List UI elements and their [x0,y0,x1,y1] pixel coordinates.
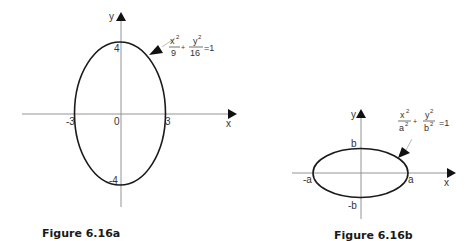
svg-text:2: 2 [176,34,180,40]
y-axis-arrow-icon [356,109,366,118]
svg-text:a: a [399,123,404,133]
tick-top: 4 [114,43,120,54]
figure-6-16b: y x b -b -a a x 2 a 2 + y 2 b 2 =1 Figur… [292,108,456,241]
y-axis-arrow-icon [116,12,126,21]
y-axis-label: y [351,109,356,120]
svg-text:x: x [400,110,405,120]
equation-a: x 2 9 + y 2 16 =1 [169,34,214,58]
tick-bottom: -b [348,200,357,211]
svg-text:=1: =1 [439,118,449,128]
svg-text:x: x [170,36,175,46]
y-axis-label: y [109,11,114,22]
tick-origin: 0 [114,116,120,127]
tick-right: 3 [165,116,171,127]
svg-text:=1: =1 [204,43,214,53]
pointer-arrow-icon [149,45,163,55]
figure-6-16a: y x 4 -4 -3 0 3 x 2 9 + y 2 16 =1 Figure… [22,11,237,240]
svg-text:16: 16 [190,48,200,58]
caption: Figure 6.16b [334,229,413,241]
ellipse-curve [75,42,166,185]
equation-pointer [406,139,412,150]
svg-text:2: 2 [198,34,202,40]
svg-text:2: 2 [405,121,409,127]
svg-text:9: 9 [171,48,176,58]
tick-right: a [408,174,414,185]
svg-text:2: 2 [406,108,410,114]
ellipse-figures: y x 4 -4 -3 0 3 x 2 9 + y 2 16 =1 Figure… [0,0,474,241]
x-axis-label: x [444,177,449,188]
pointer-arrow-icon [398,147,410,158]
equation-b: x 2 a 2 + y 2 b 2 =1 [398,108,449,133]
tick-left: -3 [66,116,75,127]
tick-top: b [351,138,357,149]
tick-bottom: -4 [109,175,118,186]
svg-text:+: + [413,118,417,125]
x-axis-label: x [226,118,231,129]
tick-left: -a [303,174,312,185]
svg-text:b: b [424,123,429,133]
caption: Figure 6.16a [42,227,120,240]
svg-text:2: 2 [430,121,434,127]
svg-text:+: + [181,44,185,51]
svg-text:2: 2 [430,108,434,114]
